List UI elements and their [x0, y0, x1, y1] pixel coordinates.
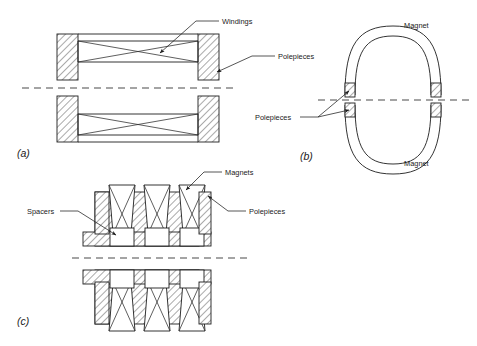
label-polepieces-b: Polepieces — [255, 113, 291, 122]
windings-leader — [160, 21, 196, 53]
magnet-lower-2 — [144, 270, 170, 331]
panel-a-lower-body — [78, 114, 198, 142]
panel-a-lower-assembly — [57, 96, 219, 142]
magnet-body-2 — [144, 185, 170, 234]
polepiece-lower-right — [431, 103, 441, 117]
spacer-block-l1 — [110, 270, 134, 288]
right-polepiece-stack — [199, 192, 211, 234]
magnet-assemblies-figure: Windings Polepieces (a) Magnet Magnet Po… — [0, 0, 477, 346]
polepieces-leader — [217, 56, 252, 72]
magnet-body-l2 — [144, 282, 170, 331]
left-polepiece-stack — [95, 192, 109, 234]
left-polepiece-stack-lower — [95, 282, 109, 324]
panel-a: Windings Polepieces (a) — [17, 17, 314, 159]
polepiece-lower-left — [345, 103, 355, 117]
panel-a-upper-assembly — [57, 34, 219, 80]
magnet-upper-1 — [109, 185, 135, 246]
right-polepiece — [198, 34, 219, 80]
magnet-lower-1 — [109, 270, 135, 331]
panel-a-upper-body — [78, 34, 198, 62]
magnet-upper-2 — [144, 185, 170, 246]
spacer-block — [110, 228, 134, 246]
polepiece-upper-right — [431, 83, 441, 97]
winding-crossing-lower — [78, 114, 198, 135]
polepiece-upper-left — [345, 83, 355, 97]
upper-yoke-inner — [355, 36, 431, 95]
label-polepieces-a: Polepieces — [278, 52, 314, 61]
figure-canvas: Windings Polepieces (a) Magnet Magnet Po… — [0, 0, 477, 346]
label-polepieces-c: Polepieces — [249, 207, 285, 216]
right-polepiece-lower — [198, 96, 219, 142]
caption-c: (c) — [17, 315, 29, 327]
label-magnet-top: Magnet — [404, 21, 429, 30]
caption-a: (a) — [17, 147, 30, 159]
panel-c-upper-stack — [83, 185, 211, 246]
magnet-body-1 — [109, 185, 135, 234]
magnet-body-l1 — [109, 282, 135, 331]
label-spacers: Spacers — [27, 207, 54, 216]
lower-yoke-inner — [355, 105, 431, 164]
spacer-block-2 — [145, 228, 169, 246]
label-windings: Windings — [222, 17, 253, 26]
left-polepiece — [57, 34, 78, 80]
panel-b: Magnet Magnet Polepieces (b) — [255, 21, 470, 174]
label-magnet-bottom: Magnet — [404, 159, 429, 168]
left-polepiece-lower — [57, 96, 78, 142]
winding-crossing — [78, 41, 198, 62]
polepieces-b-leader-up — [318, 91, 349, 117]
spacer-block-l2 — [145, 270, 169, 288]
panel-c: Magnets Spacers Polepieces (c) — [17, 168, 285, 331]
caption-b: (b) — [300, 150, 313, 162]
right-polepiece-stack-lower — [199, 282, 211, 324]
panel-c-lower-stack — [83, 270, 211, 331]
label-magnets: Magnets — [225, 168, 254, 177]
